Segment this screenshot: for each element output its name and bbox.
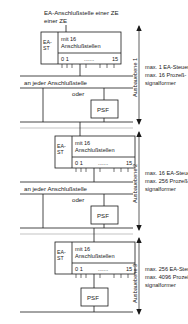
level1-port-dots: ....... [84,56,94,62]
level1-annotation-line3: signalformer [145,80,176,86]
level3-module-header-line1: mit 16 [75,246,90,252]
ausbauebene-2-axis-label: Ausbauebene 2 [132,164,138,203]
level2-annotation-line3: signalformer [145,186,176,192]
level3-annotation-line2: max. 4096 Prozeß- [145,274,188,280]
ausbauebene-1-axis-label: Ausbauebene 1 [132,58,138,97]
level1-alt-label: oder [72,90,84,97]
level2-port-first: 0 1 [75,160,83,166]
expansion-level-diagram: EA-Anschlußstelle einer ZE einer ZE EA- … [0,0,188,324]
level2-annotation-line2: max. 256 Prozeß- [145,178,188,184]
level2-alt-label: oder [72,196,84,203]
level1-port-ticks [62,64,114,68]
level1-port-last: 15 [112,56,118,62]
level3-annotation-line3: signalformer [145,282,176,288]
level2-module-header-line2: Anschlußstellen [75,147,115,153]
level3-port-first: 0 1 [75,266,83,272]
level2-port-ticks [76,168,128,172]
level3-port-dots: ....... [98,266,108,272]
level3-module-header-line2: Anschlußstellen [75,253,115,259]
ausbauebene-1-dimension: Ausbauebene 1 [132,25,142,125]
level1-annotation-line1: max. 1 EA-Steuerung [145,64,188,70]
level2-module-header-line1: mit 16 [75,140,90,146]
level1-branch-label: an jeder Anschlußstelle [24,79,88,86]
level1-est-label-line2: ST [43,45,50,51]
title-note-line1: EA-Anschlußstelle einer ZE [44,9,119,16]
level1-module-header-line1: mit 16 [61,36,76,42]
level2-annotation-line1: max. 16 EA-Steuerungen [145,170,188,176]
level1-annotation-line2: max. 16 Prozeß- [145,72,186,78]
level1-module-header-line2: Anschlußstellen [61,43,101,49]
level3-est-label-line2: ST [57,255,64,261]
level1-port-first: 0 1 [61,56,69,62]
title-note-line2: einer ZE [44,17,67,24]
level3-psf-label: PSF [87,294,99,301]
level2-port-dots: ....... [98,160,108,166]
level3-port-ticks [76,274,128,278]
ausbauebene-3-axis-label: Ausbauebene 3 [132,264,138,303]
level2-branch-label: an jeder Anschlußstelle [24,185,88,192]
level2-est-label-line2: ST [57,149,64,155]
level3-annotation-line1: max. 256 EA-Steuerungen [145,266,188,272]
level1-psf-label: PSF [97,106,109,113]
level2-psf-label: PSF [97,212,109,219]
